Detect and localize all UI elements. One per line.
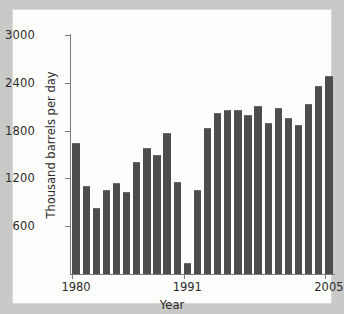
x-axis-tick-label: 1991 (173, 280, 202, 294)
bar (305, 104, 312, 274)
bar (184, 263, 191, 274)
bar (123, 192, 130, 274)
x-axis-line (70, 274, 335, 275)
x-axis-tick (325, 274, 326, 279)
bar (83, 186, 90, 274)
bar (224, 110, 231, 274)
x-axis-tick (72, 274, 73, 279)
bar (325, 76, 332, 274)
bar (204, 128, 211, 274)
bar (265, 123, 272, 274)
chart-page: 6001200180024003000 198019912005 Thousan… (0, 0, 344, 314)
x-axis-title: Year (13, 298, 331, 312)
bar (93, 208, 100, 274)
bar (234, 110, 241, 274)
bar (153, 155, 160, 274)
bar (163, 133, 170, 274)
bar (133, 162, 140, 274)
bar (113, 183, 120, 274)
bar (103, 190, 110, 274)
chart-card: 6001200180024003000 198019912005 Thousan… (13, 10, 331, 303)
x-axis-tick (184, 274, 185, 279)
bar (254, 106, 261, 274)
bar (244, 115, 251, 274)
x-axis-tick-label: 2005 (314, 280, 343, 294)
bar (194, 190, 201, 274)
bar (143, 148, 150, 274)
x-axis-tick-label: 1980 (61, 280, 90, 294)
y-axis-tick-label: 600 (0, 219, 35, 233)
y-axis-tick-label: 3000 (0, 28, 35, 42)
y-axis-tick-label: 1800 (0, 124, 35, 138)
y-axis-tick-label: 1200 (0, 171, 35, 185)
y-axis-title: Thousand barrels per day (44, 55, 58, 235)
y-axis-tick-label: 2400 (0, 76, 35, 90)
bar (214, 113, 221, 274)
bar-series (71, 35, 334, 274)
bar (295, 125, 302, 274)
bar (275, 108, 282, 275)
bar (174, 182, 181, 274)
bar (72, 143, 79, 274)
bar (315, 86, 322, 274)
bar (285, 118, 292, 274)
